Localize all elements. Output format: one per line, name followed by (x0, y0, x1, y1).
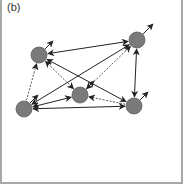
node-D (16, 101, 32, 117)
self-arrow-D (30, 95, 38, 103)
edge-B-E (134, 49, 136, 97)
edge-D-E (33, 106, 125, 109)
node-E (126, 98, 142, 114)
edge-D-C (33, 97, 72, 107)
node-C (72, 87, 88, 103)
self-arrow-B (143, 24, 153, 34)
self-arrow-A (45, 41, 53, 49)
edge-D-A (26, 64, 36, 101)
edge-A-B (48, 41, 128, 53)
network-graph (0, 0, 185, 186)
edge-A-C (45, 61, 73, 88)
self-arrow-E (140, 92, 148, 100)
node-A (31, 47, 47, 63)
node-B (129, 32, 145, 48)
